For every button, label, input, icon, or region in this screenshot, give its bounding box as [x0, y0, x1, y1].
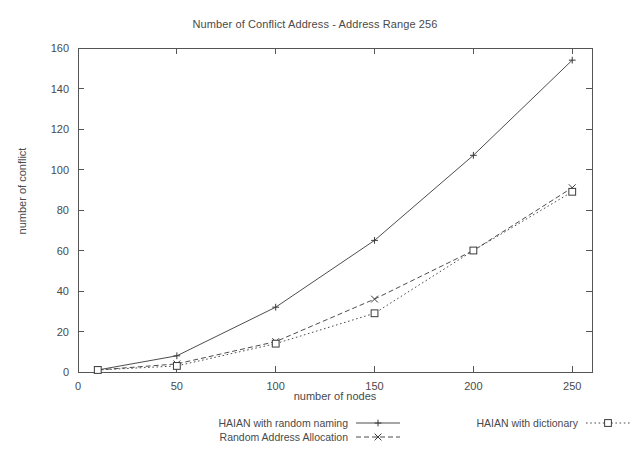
axes	[78, 48, 592, 372]
y-tick-label: 160	[51, 42, 69, 54]
legend-label: HAIAN with random naming	[218, 417, 348, 429]
legend-entry-0[interactable]: HAIAN with random naming	[218, 417, 400, 429]
y-tick-label: 60	[57, 245, 69, 257]
legend-entry-2[interactable]: HAIAN with dictionary	[476, 417, 630, 429]
y-tick-label: 120	[51, 123, 69, 135]
legend-entry-1[interactable]: Random Address Allocation	[220, 431, 400, 443]
legend-marker-plus-icon	[375, 420, 382, 427]
series-1	[94, 184, 575, 373]
x-tick-label: 50	[171, 380, 183, 392]
x-tick-label: 100	[267, 380, 285, 392]
axis-ticks: 020406080100120140160050100150200250	[51, 42, 592, 392]
y-tick-label: 0	[63, 366, 69, 378]
legend-label: Random Address Allocation	[220, 431, 349, 443]
plot-area: 020406080100120140160050100150200250 HAI…	[0, 0, 630, 451]
y-tick-label: 40	[57, 285, 69, 297]
y-tick-label: 100	[51, 164, 69, 176]
y-tick-label: 80	[57, 204, 69, 216]
series-2	[94, 188, 575, 373]
x-tick-label: 250	[563, 380, 581, 392]
series-0	[94, 57, 575, 374]
data-series	[94, 57, 575, 374]
x-tick-label: 200	[464, 380, 482, 392]
legend-marker-square-icon	[605, 420, 612, 427]
x-tick-label: 150	[365, 380, 383, 392]
y-tick-label: 20	[57, 326, 69, 338]
x-tick-label: 0	[75, 380, 81, 392]
y-tick-label: 140	[51, 83, 69, 95]
legend-label: HAIAN with dictionary	[476, 417, 578, 429]
chart-legend: HAIAN with random namingRandom Address A…	[218, 417, 630, 443]
chart-figure: Number of Conflict Address - Address Ran…	[0, 0, 630, 451]
